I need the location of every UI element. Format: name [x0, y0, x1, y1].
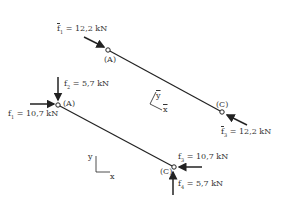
free-body-diagram: f1 = 12,2 kN (A) (C) f3 = 12,2 kN y x f2…	[0, 0, 281, 216]
y-axis-label: y	[88, 153, 93, 161]
top-node-c-icon	[220, 110, 224, 114]
top-node-a-label: (A)	[104, 56, 116, 64]
top-force-3-arrow	[227, 115, 247, 125]
bottom-node-a-icon	[56, 103, 60, 107]
top-force-1-label: f1 = 12,2 kN	[57, 25, 107, 35]
bottom-node-a-label: (A)	[63, 100, 75, 108]
bottom-force-2-label: f2 = 5,7 kN	[64, 80, 109, 90]
bottom-node-c-label: (C)	[160, 168, 172, 176]
diagram-graphics	[0, 0, 281, 216]
bottom-force-1-label: f1 = 10,7 kN	[8, 110, 58, 120]
top-node-a-icon	[106, 48, 110, 52]
bottom-force-3-label: f3 = 10,7 kN	[178, 153, 228, 163]
top-node-c-label: (C)	[216, 101, 228, 109]
bottom-force-4-label: f4 = 5,7 kN	[178, 180, 223, 190]
bottom-node-c-icon	[172, 165, 176, 169]
x-axis-label: x	[110, 173, 115, 181]
bottom-member-line	[58, 105, 174, 167]
rot-x-label: x	[163, 106, 168, 114]
top-force-1-arrow	[84, 37, 104, 47]
rot-y-label: y	[156, 92, 161, 100]
rot-x-axis-icon	[150, 104, 162, 110]
top-member-line	[108, 50, 222, 112]
top-force-3-label: f3 = 12,2 kN	[221, 128, 271, 138]
xy-axes-icon	[96, 156, 110, 172]
